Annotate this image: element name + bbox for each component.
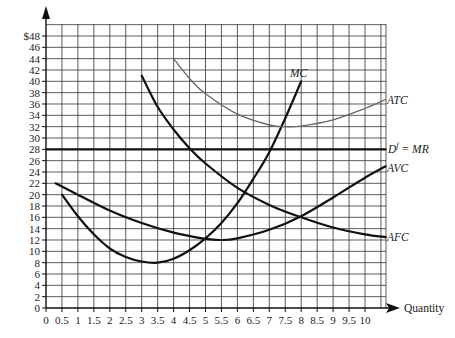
y-tick-label: 22 [29,177,40,189]
afc-label: AFC [386,231,409,243]
y-tick-label: 28 [29,143,41,155]
x-tick-label: 0 [43,314,49,326]
x-tick-label: 3 [139,314,145,326]
x-tick-label: 6.5 [246,314,260,326]
y-tick-label: 36 [29,98,41,110]
atc-label: ATC [386,94,408,106]
y-tick-label: 18 [29,200,41,212]
y-tick-label: 24 [29,166,41,178]
x-tick-label: 1 [75,314,81,326]
x-tick-label: 3.5 [151,314,165,326]
y-tick-label: 10 [29,245,41,257]
y-tick-label: 30 [29,132,41,144]
x-axis-label: Quantity [404,302,444,315]
x-axis-ticks: 00.511.522.533.544.555.566.577.588.599.5… [43,308,371,326]
x-tick-label: 1.5 [87,314,101,326]
demand-mr-label: Df = MR [387,141,429,155]
y-tick-label: 34 [29,109,41,121]
x-tick-label: 9.5 [342,314,356,326]
y-tick-label: 16 [29,211,41,223]
x-tick-label: 6 [235,314,241,326]
x-tick-label: 8.5 [310,314,324,326]
x-tick-label: 7 [267,314,273,326]
y-tick-label: 8 [35,257,41,269]
x-tick-label: 4 [171,314,177,326]
y-tick-label: 46 [29,41,41,53]
y-tick-label: 2 [35,291,41,303]
x-tick-label: 8 [298,314,304,326]
y-tick-label: 14 [29,223,41,235]
cost-curves-chart: 0246810121416182022242628303234363840424… [0,0,455,338]
y-tick-label: 0 [35,302,41,314]
axes [42,6,400,313]
y-tick-label: 42 [29,64,40,76]
y-axis-arrow-icon [42,6,50,19]
x-tick-label: 2.5 [119,314,133,326]
y-tick-label: 32 [29,121,40,133]
x-tick-label: 0.5 [55,314,69,326]
y-tick-label: 26 [29,155,41,167]
y-tick-label: 6 [35,268,41,280]
y-tick-label: 44 [29,53,41,65]
x-tick-label: 5.5 [215,314,229,326]
x-tick-label: 7.5 [278,314,292,326]
x-tick-label: 5 [203,314,209,326]
mc-label: MC [289,67,308,79]
x-tick-label: 2 [107,314,113,326]
y-tick-label: 20 [29,189,41,201]
x-tick-label: 4.5 [183,314,197,326]
y-tick-label: 38 [29,87,41,99]
y-tick-label: 4 [35,279,41,291]
x-tick-label: 10 [360,314,372,326]
avc-label: AVC [386,162,408,174]
y-tick-label: 40 [29,75,41,87]
y-axis-ticks: 0246810121416182022242628303234363840424… [24,30,47,314]
y-tick-label: $48 [24,30,41,42]
y-tick-label: 12 [29,234,40,246]
grid [46,24,386,308]
x-tick-label: 9 [330,314,336,326]
